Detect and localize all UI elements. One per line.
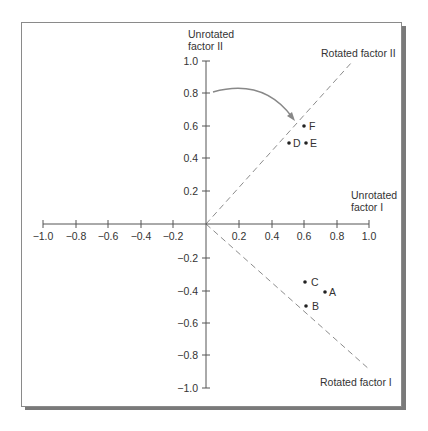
rotated-factor-1-axis <box>206 224 370 370</box>
svg-text:−0.6: −0.6 <box>98 230 119 242</box>
data-points <box>287 124 327 308</box>
point-labels: F D E C A B <box>293 120 336 312</box>
unrotated-factor-1-label: Unrotated <box>351 189 397 201</box>
svg-text:1.0: 1.0 <box>362 230 377 242</box>
svg-text:0.8: 0.8 <box>183 87 198 99</box>
point-F <box>302 124 306 128</box>
x-tick-labels: −1.0 −0.8 −0.6 −0.4 −0.2 0.2 0.4 0.6 0.8… <box>33 230 377 242</box>
svg-text:1.0: 1.0 <box>183 55 198 67</box>
point-A <box>323 290 327 294</box>
svg-text:−0.4: −0.4 <box>177 285 198 297</box>
svg-text:−0.6: −0.6 <box>177 317 198 329</box>
arrowhead-icon <box>287 112 295 121</box>
svg-text:D: D <box>293 137 301 149</box>
point-B <box>304 304 308 308</box>
svg-text:−0.2: −0.2 <box>163 230 184 242</box>
factor-rotation-diagram: −1.0 −0.8 −0.6 −0.4 −0.2 0.2 0.4 0.6 0.8… <box>0 0 428 431</box>
unrotated-factor-2-label-line2: factor II <box>188 40 223 52</box>
svg-text:0.8: 0.8 <box>330 230 345 242</box>
svg-text:−1.0: −1.0 <box>33 230 54 242</box>
svg-text:−1.0: −1.0 <box>177 382 198 394</box>
svg-text:0.6: 0.6 <box>183 120 198 132</box>
svg-text:F: F <box>309 120 315 132</box>
svg-text:0.2: 0.2 <box>183 185 198 197</box>
svg-text:−0.4: −0.4 <box>131 230 152 242</box>
svg-text:0.2: 0.2 <box>232 230 247 242</box>
rotated-factor-2-axis <box>206 62 352 224</box>
point-E <box>304 141 308 145</box>
svg-text:C: C <box>311 276 319 288</box>
svg-text:B: B <box>312 300 319 312</box>
svg-text:0.6: 0.6 <box>297 230 312 242</box>
svg-text:0.4: 0.4 <box>265 230 280 242</box>
point-C <box>303 280 307 284</box>
svg-text:A: A <box>329 286 336 298</box>
svg-text:−0.2: −0.2 <box>177 252 198 264</box>
rotation-arrow <box>213 88 292 117</box>
rotated-factor-1-label: Rotated factor I <box>320 376 392 388</box>
svg-text:0.4: 0.4 <box>183 152 198 164</box>
unrotated-factor-1-label-line2: factor I <box>351 201 383 213</box>
svg-text:E: E <box>310 137 317 149</box>
point-D <box>287 141 291 145</box>
svg-text:−0.8: −0.8 <box>177 349 198 361</box>
rotated-factor-2-label: Rotated factor II <box>321 47 396 59</box>
svg-text:−0.8: −0.8 <box>66 230 87 242</box>
unrotated-factor-2-label: Unrotated <box>188 28 234 40</box>
